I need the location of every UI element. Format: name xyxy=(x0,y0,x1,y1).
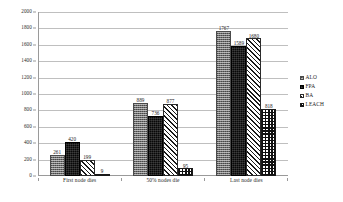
bar-wrap: 95 xyxy=(178,12,193,176)
bar-alo[interactable]: 1767 xyxy=(216,31,231,176)
bar-value-label: 889 xyxy=(137,98,145,103)
bar-wrap: 9 xyxy=(95,12,110,176)
y-tick-mark xyxy=(33,126,36,127)
y-tick-label: 1600 xyxy=(21,42,32,47)
bar-wrap: 1589 xyxy=(231,12,246,176)
legend-item-ba[interactable]: BA xyxy=(300,91,343,100)
bar-value-label: 95 xyxy=(183,164,188,169)
legend-label: BA xyxy=(306,93,314,98)
x-tick-label-last-node-dies: Last node dies xyxy=(205,178,288,183)
legend: ALO FPA BA LEACH xyxy=(300,73,343,109)
bar-groups: 261 420 199 9 xyxy=(38,12,288,176)
bar-value-label: 877 xyxy=(167,99,175,104)
bar-alo[interactable]: 889 xyxy=(133,103,148,176)
bar-value-label: 261 xyxy=(53,150,61,155)
bar-value-label: 420 xyxy=(68,137,76,142)
bar-wrap: 420 xyxy=(65,12,80,176)
bar-group: 889 736 877 95 xyxy=(121,12,204,176)
bar-value-label: 1589 xyxy=(234,41,244,46)
y-tick-label: 400 xyxy=(24,141,32,146)
x-tick-label-first-node-dies: First node dies xyxy=(38,178,121,183)
bar-ba[interactable]: 1680 xyxy=(246,38,261,176)
y-tick-mark xyxy=(33,61,36,62)
bar-group: 1767 1589 1680 xyxy=(205,12,288,176)
y-tick-label: 600 xyxy=(24,124,32,129)
bar-value-label: 736 xyxy=(152,111,160,116)
bar-leach[interactable]: 9 xyxy=(95,174,110,176)
legend-swatch-icon-fpa xyxy=(300,85,304,89)
y-axis: 2000 1800 1600 1400 1200 1000 800 600 40… xyxy=(0,12,36,176)
bar-value-label: 9 xyxy=(101,169,104,174)
legend-swatch-icon-leach xyxy=(300,103,304,107)
x-tick-mark xyxy=(121,178,122,181)
bar-value-label: 1767 xyxy=(219,26,229,31)
y-tick-label: 2000 xyxy=(21,9,32,14)
legend-swatch-icon-alo xyxy=(300,76,304,80)
legend-item-leach[interactable]: LEACH xyxy=(300,100,343,109)
bar-wrap: 889 xyxy=(133,12,148,176)
legend-item-fpa[interactable]: FPA xyxy=(300,82,343,91)
x-axis: First node dies 50% nodes die Last node … xyxy=(38,178,288,183)
y-tick-label: 800 xyxy=(24,108,32,113)
bar-group: 261 420 199 9 xyxy=(38,12,121,176)
x-tick-mark xyxy=(38,178,39,181)
y-tick-mark xyxy=(33,44,36,45)
bar-leach[interactable]: 818 xyxy=(261,109,276,176)
y-tick-mark xyxy=(33,94,36,95)
y-tick-label: 1400 xyxy=(21,59,32,64)
y-tick-label: 1800 xyxy=(21,26,32,31)
bar-alo[interactable]: 261 xyxy=(50,155,65,176)
bar-fpa[interactable]: 736 xyxy=(148,116,163,176)
bar-wrap: 818 xyxy=(261,12,276,176)
y-tick-mark xyxy=(33,12,36,13)
legend-label: LEACH xyxy=(306,102,324,107)
legend-label: ALO xyxy=(306,75,317,80)
bar-wrap: 877 xyxy=(163,12,178,176)
bar-wrap: 199 xyxy=(80,12,95,176)
bar-chart: 2000 1800 1600 1400 1200 1000 800 600 40… xyxy=(0,0,343,202)
y-tick-mark xyxy=(33,28,36,29)
bar-leach[interactable]: 95 xyxy=(178,168,193,176)
legend-label: FPA xyxy=(306,84,316,89)
bar-fpa[interactable]: 1589 xyxy=(231,46,246,176)
y-tick-mark xyxy=(33,176,36,177)
bar-value-label: 818 xyxy=(265,104,273,109)
y-tick-label: 0 xyxy=(29,173,32,178)
legend-swatch-icon-ba xyxy=(300,94,304,98)
bar-wrap: 736 xyxy=(148,12,163,176)
bar-value-label: 1680 xyxy=(249,34,259,39)
x-tick-mark xyxy=(287,178,288,181)
bar-wrap: 1767 xyxy=(216,12,231,176)
bar-fpa[interactable]: 420 xyxy=(65,142,80,176)
y-tick-mark xyxy=(33,159,36,160)
bar-value-label: 199 xyxy=(83,155,91,160)
y-tick-label: 200 xyxy=(24,157,32,162)
x-tick-mark xyxy=(204,178,205,181)
bar-ba[interactable]: 877 xyxy=(163,104,178,176)
y-tick-mark xyxy=(33,77,36,78)
bar-wrap: 1680 xyxy=(246,12,261,176)
plot-area: 261 420 199 9 xyxy=(38,12,288,176)
y-tick-label: 1200 xyxy=(21,75,32,80)
bar-wrap: 261 xyxy=(50,12,65,176)
x-tick-label-50pct-nodes-die: 50% nodes die xyxy=(121,178,204,183)
bar-ba[interactable]: 199 xyxy=(80,160,95,176)
legend-item-alo[interactable]: ALO xyxy=(300,73,343,82)
y-tick-mark xyxy=(33,143,36,144)
y-tick-mark xyxy=(33,110,36,111)
y-tick-label: 1000 xyxy=(21,91,32,96)
